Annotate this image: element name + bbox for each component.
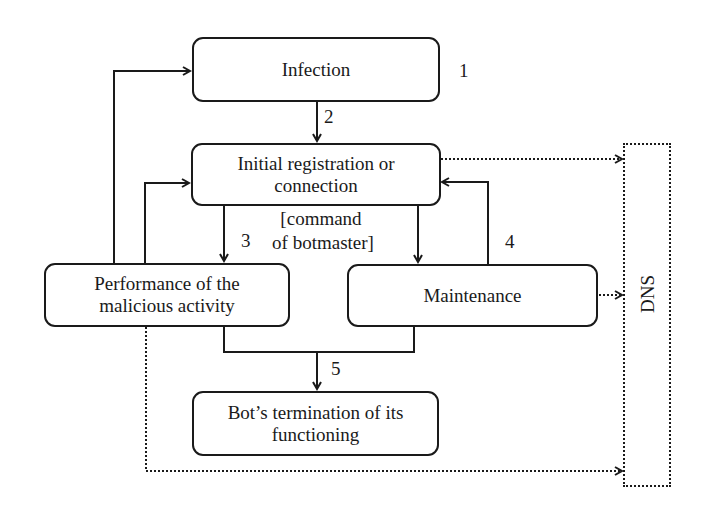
node-dns bbox=[623, 143, 671, 487]
node-maintenance: Maintenance bbox=[347, 264, 598, 327]
node-termination-label-line1: Bot’s termination of its bbox=[228, 402, 404, 424]
arrow-maintenance-to-registration bbox=[442, 182, 488, 264]
node-initial-registration: Initial registration or connection bbox=[191, 143, 441, 206]
node-termination-label-line2: functioning bbox=[272, 424, 360, 446]
step-label-3: 3 bbox=[241, 230, 251, 252]
node-performance-label-line1: Performance of the bbox=[94, 273, 240, 295]
annotation-command-line1: [command bbox=[280, 208, 361, 230]
step-label-4: 4 bbox=[505, 231, 515, 253]
node-performance-label-line2: malicious activity bbox=[99, 295, 235, 317]
node-infection: Infection bbox=[192, 37, 440, 102]
node-infection-label: Infection bbox=[282, 59, 351, 81]
merge-connector bbox=[224, 327, 414, 352]
node-maintenance-label: Maintenance bbox=[423, 285, 521, 307]
arrow-performance-to-registration bbox=[145, 183, 189, 263]
node-performance: Performance of the malicious activity bbox=[44, 263, 290, 327]
step-label-1: 1 bbox=[459, 60, 469, 82]
botnet-lifecycle-diagram: Infection Initial registration or connec… bbox=[0, 0, 709, 509]
node-registration-label-line1: Initial registration or bbox=[237, 153, 394, 175]
annotation-command-line2: of botmaster] bbox=[272, 232, 374, 254]
node-termination: Bot’s termination of its functioning bbox=[192, 391, 439, 456]
step-label-2: 2 bbox=[324, 106, 334, 128]
node-registration-label-line2: connection bbox=[274, 175, 357, 197]
node-dns-label: DNS bbox=[637, 275, 659, 313]
step-label-5: 5 bbox=[331, 358, 341, 380]
arrow-performance-to-infection bbox=[114, 71, 190, 263]
